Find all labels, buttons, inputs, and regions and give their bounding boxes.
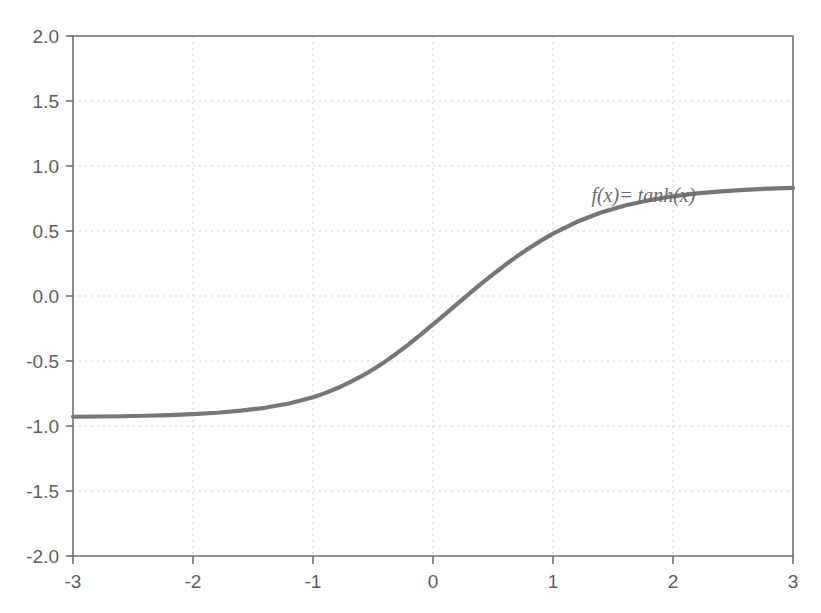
y-tick-label: 1.0 <box>33 156 59 177</box>
x-tick-label: 3 <box>788 571 799 592</box>
x-tick-label: 1 <box>548 571 559 592</box>
y-tick-label: 2.0 <box>33 26 59 47</box>
figure-container: 2.01.51.00.50.0-0.5-1.0-1.5-2.0 -3-2-101… <box>0 0 821 613</box>
y-tick-label: 0.0 <box>33 286 59 307</box>
chart-annotations: f(x)= tanh(x) <box>591 184 695 207</box>
y-tick-label: -1.5 <box>26 481 59 502</box>
curve-equation-label: f(x)= tanh(x) <box>591 184 695 207</box>
chart-background <box>0 0 821 613</box>
x-tick-label: -2 <box>185 571 202 592</box>
y-tick-label: -2.0 <box>26 546 59 567</box>
y-tick-label: 1.5 <box>33 91 59 112</box>
tanh-function-chart: 2.01.51.00.50.0-0.5-1.0-1.5-2.0 -3-2-101… <box>0 0 821 613</box>
y-tick-label: -0.5 <box>26 351 59 372</box>
x-tick-label: -3 <box>65 571 82 592</box>
x-tick-label: 0 <box>428 571 439 592</box>
y-tick-label: -1.0 <box>26 416 59 437</box>
y-tick-label: 0.5 <box>33 221 59 242</box>
x-tick-label: 2 <box>668 571 679 592</box>
x-tick-label: -1 <box>305 571 322 592</box>
